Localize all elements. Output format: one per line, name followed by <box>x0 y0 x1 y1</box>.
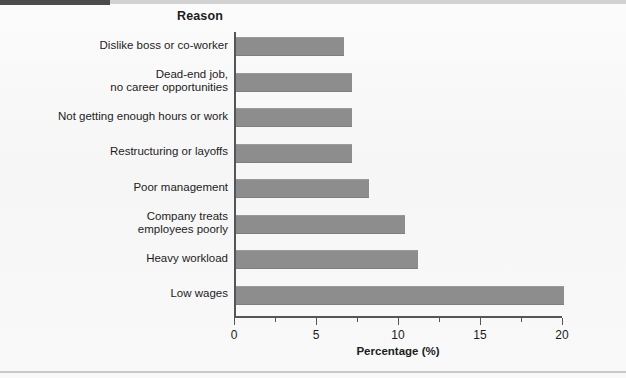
x-tick-major <box>398 318 399 325</box>
bar <box>236 73 352 92</box>
category-label: Restructuring or layoffs <box>0 145 228 159</box>
x-tick-major <box>234 318 235 325</box>
category-label: Company treats employees poorly <box>0 210 228 237</box>
bar <box>236 108 352 127</box>
x-tick-label: 20 <box>542 328 582 342</box>
x-tick-label: 0 <box>214 328 254 342</box>
category-label: Poor management <box>0 181 228 195</box>
category-label: Heavy workload <box>0 252 228 266</box>
x-tick-major <box>480 318 481 325</box>
x-tick-label: 15 <box>460 328 500 342</box>
plot-area: 05101520 <box>234 32 562 318</box>
chart-title: Reason <box>120 9 280 23</box>
x-tick-label: 5 <box>296 328 336 342</box>
bar <box>236 286 564 305</box>
x-axis-title: Percentage (%) <box>234 345 562 357</box>
bar <box>236 250 418 269</box>
x-tick-major <box>316 318 317 325</box>
x-tick-minor <box>275 318 276 322</box>
x-tick-minor <box>521 318 522 322</box>
category-label: Not getting enough hours or work <box>0 110 228 124</box>
bar <box>236 144 352 163</box>
bottom-divider-rule <box>0 371 626 373</box>
x-tick-minor <box>357 318 358 322</box>
category-label: Dislike boss or co-worker <box>0 39 228 53</box>
x-tick-label: 10 <box>378 328 418 342</box>
category-label: Dead-end job, no career opportunities <box>0 68 228 95</box>
x-tick-minor <box>439 318 440 322</box>
bar <box>236 37 344 56</box>
category-label: Low wages <box>0 287 228 301</box>
top-accent-tab <box>0 0 110 5</box>
x-tick-major <box>562 318 563 325</box>
chart-figure: Reason 05101520 Percentage (%) Dislike b… <box>0 0 626 378</box>
bar <box>236 179 369 198</box>
bar <box>236 215 405 234</box>
